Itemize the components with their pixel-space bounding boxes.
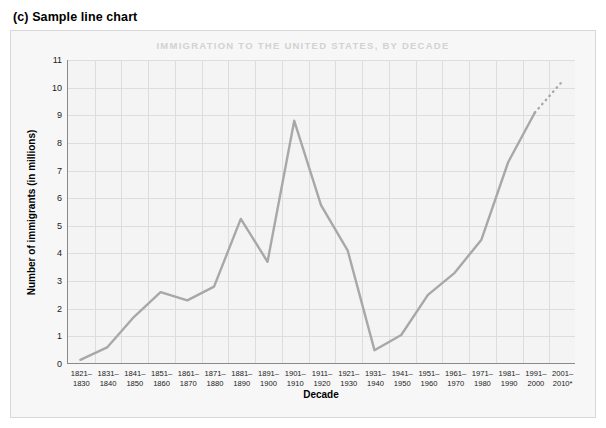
x-axis-tick-label: 2001–2010* xyxy=(552,369,573,389)
x-axis-tick-label: 1891–1900 xyxy=(258,369,279,389)
x-axis-tick-label: 1981–1990 xyxy=(499,369,520,389)
x-axis-tick-label: 1911–1920 xyxy=(312,369,333,389)
x-axis-tick-label: 1931–1940 xyxy=(365,369,386,389)
chart-card: IMMIGRATION TO THE UNITED STATES, BY DEC… xyxy=(10,30,596,418)
x-axis-tick-label: 1841–1850 xyxy=(124,369,145,389)
y-axis-tick-label: 7 xyxy=(57,166,62,176)
y-axis-tick-label: 9 xyxy=(57,110,62,120)
figure-caption: (c) Sample line chart xyxy=(13,10,137,24)
x-axis-tick-label: 1921–1930 xyxy=(338,369,359,389)
x-axis-tick-label: 1821–1830 xyxy=(71,369,92,389)
y-axis-title: Number of immigrants (in millions) xyxy=(25,60,39,364)
x-axis-tick-label: 1951–1960 xyxy=(418,369,439,389)
line-path-actual xyxy=(80,113,535,360)
y-axis-tick-label: 3 xyxy=(57,276,62,286)
y-axis-tick-label: 8 xyxy=(57,138,62,148)
line-path-projection xyxy=(535,82,562,112)
x-axis-tick-label: 1881–1890 xyxy=(231,369,252,389)
x-axis-tick-label: 1961–1970 xyxy=(445,369,466,389)
y-axis-tick-label: 6 xyxy=(57,193,62,203)
y-axis-tick-label: 2 xyxy=(57,304,62,314)
y-axis-tick-label: 1 xyxy=(57,331,62,341)
y-axis-title-text: Number of immigrants (in millions) xyxy=(27,129,38,295)
x-axis-tick-label: 1831–1840 xyxy=(98,369,119,389)
x-axis-tick-label: 1901–1910 xyxy=(285,369,306,389)
x-axis-tick-label: 1871–1880 xyxy=(204,369,225,389)
x-axis-tick-label: 1851–1860 xyxy=(151,369,172,389)
chart-title: IMMIGRATION TO THE UNITED STATES, BY DEC… xyxy=(11,40,595,51)
y-axis-tick-label: 10 xyxy=(52,83,62,93)
y-axis-tick-label: 11 xyxy=(53,55,62,65)
x-axis-tick-label: 1861–1870 xyxy=(178,369,199,389)
plot-wrap: 012345678910111821–18301831–18401841–185… xyxy=(67,60,575,364)
y-axis-tick-label: 4 xyxy=(57,248,62,258)
y-axis-tick-label: 0 xyxy=(57,359,62,369)
x-axis-tick-label: 1941–1950 xyxy=(392,369,413,389)
x-axis-tick-label: 1991–2000 xyxy=(525,369,546,389)
line-series xyxy=(67,60,575,364)
y-axis-tick-label: 5 xyxy=(57,221,62,231)
x-axis-tick-label: 1971–1980 xyxy=(472,369,493,389)
x-axis-title: Decade xyxy=(67,389,575,400)
